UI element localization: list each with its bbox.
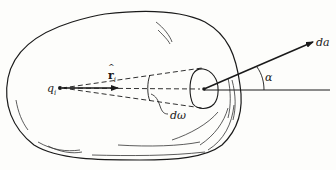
solid-angle-label: dω xyxy=(170,110,186,121)
solid-angle-arc xyxy=(148,75,150,101)
angle-label: α xyxy=(265,72,272,83)
gauss-law-diagram: qi ri dω da α xyxy=(0,0,336,170)
charge-subscript: i xyxy=(54,89,56,97)
unit-vector-label: ri xyxy=(108,70,116,84)
area-element-label: da xyxy=(316,37,330,48)
solid-angle-leader xyxy=(151,94,168,114)
area-vector-arrow xyxy=(204,42,313,89)
charge-point xyxy=(58,86,62,90)
charge-symbol: q xyxy=(47,82,54,95)
angle-arc xyxy=(257,67,264,90)
unit-vector-symbol: r xyxy=(108,70,114,81)
charge-label: qi xyxy=(47,83,56,97)
unit-vector-subscript: i xyxy=(114,76,116,84)
closed-surface-outline xyxy=(7,12,242,160)
